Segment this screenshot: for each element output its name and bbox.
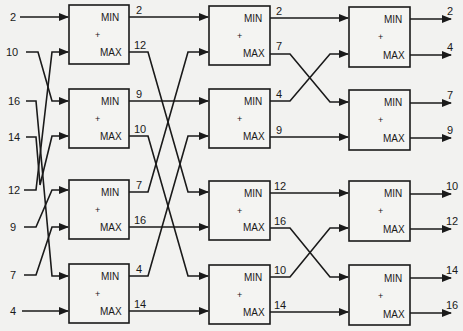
comparator-s3-3: MIN + MAX bbox=[349, 181, 410, 241]
final-output-labels: 2 4 7 9 10 12 14 16 bbox=[446, 5, 458, 311]
min-label: MIN bbox=[384, 14, 402, 25]
max-label: MAX bbox=[383, 224, 405, 235]
plus-sign: + bbox=[378, 206, 383, 216]
plus-sign: + bbox=[237, 290, 242, 300]
max-label: MAX bbox=[100, 47, 122, 58]
plus-sign: + bbox=[95, 289, 100, 299]
min-label: MIN bbox=[244, 96, 262, 107]
input-value: 4 bbox=[10, 305, 16, 317]
min-label: MIN bbox=[244, 188, 262, 199]
min-label: MIN bbox=[384, 188, 402, 199]
max-label: MAX bbox=[383, 309, 405, 320]
max-label: MAX bbox=[243, 307, 265, 318]
plus-sign: + bbox=[378, 291, 383, 301]
stage2-value: 2 bbox=[276, 5, 282, 17]
stage2-value: 12 bbox=[274, 180, 286, 192]
stage2-output-labels: 2 7 4 9 12 16 10 14 bbox=[274, 5, 286, 311]
min-label: MIN bbox=[384, 273, 402, 284]
comparator-s3-1: MIN + MAX bbox=[349, 7, 410, 67]
input-labels: 2 10 16 14 12 9 7 4 bbox=[6, 11, 20, 317]
min-label: MIN bbox=[244, 13, 262, 24]
stage1-value: 14 bbox=[134, 298, 146, 310]
min-label: MIN bbox=[101, 271, 119, 282]
stage2-value: 7 bbox=[276, 40, 282, 52]
output-value: 2 bbox=[447, 5, 453, 17]
comparator-s3-2: MIN + MAX bbox=[349, 90, 410, 150]
min-label: MIN bbox=[101, 96, 119, 107]
comparator-s1-4: MIN + MAX bbox=[69, 264, 129, 323]
comparator-s2-2: MIN + MAX bbox=[209, 89, 270, 148]
max-label: MAX bbox=[383, 133, 405, 144]
input-value: 7 bbox=[10, 269, 16, 281]
min-label: MIN bbox=[101, 187, 119, 198]
stage1-output-labels: 2 12 9 10 7 16 4 14 bbox=[134, 4, 146, 310]
plus-sign: + bbox=[237, 31, 242, 41]
plus-sign: + bbox=[95, 205, 100, 215]
stage2-value: 4 bbox=[276, 88, 282, 100]
stage1-value: 2 bbox=[136, 4, 142, 16]
output-value: 16 bbox=[446, 299, 458, 311]
stage1-value: 10 bbox=[134, 123, 146, 135]
input-value: 10 bbox=[6, 46, 18, 58]
input-value: 16 bbox=[8, 95, 20, 107]
stage1-value: 16 bbox=[134, 214, 146, 226]
stage1-value: 12 bbox=[134, 39, 146, 51]
max-label: MAX bbox=[383, 50, 405, 61]
plus-sign: + bbox=[378, 115, 383, 125]
stage2-value: 9 bbox=[276, 124, 282, 136]
comparator-s2-4: MIN + MAX bbox=[209, 265, 270, 324]
comparator-s2-1: MIN + MAX bbox=[209, 6, 270, 65]
input-value: 12 bbox=[8, 184, 20, 196]
max-label: MAX bbox=[100, 306, 122, 317]
stage1-value: 4 bbox=[136, 263, 142, 275]
comparator-s1-2: MIN + MAX bbox=[69, 89, 129, 148]
output-value: 10 bbox=[446, 180, 458, 192]
plus-sign: + bbox=[95, 114, 100, 124]
max-label: MAX bbox=[100, 222, 122, 233]
output-value: 12 bbox=[446, 215, 458, 227]
comparator-s3-4: MIN + MAX bbox=[349, 265, 410, 325]
output-value: 7 bbox=[447, 89, 453, 101]
output-wires bbox=[410, 19, 451, 313]
stage1-wires bbox=[20, 17, 68, 311]
stage2-value: 10 bbox=[274, 264, 286, 276]
input-value: 14 bbox=[8, 131, 20, 143]
max-label: MAX bbox=[243, 131, 265, 142]
output-value: 4 bbox=[447, 41, 453, 53]
comparator-s2-3: MIN + MAX bbox=[209, 181, 270, 240]
output-value: 9 bbox=[447, 124, 453, 136]
plus-sign: + bbox=[237, 114, 242, 124]
stage1-value: 9 bbox=[136, 88, 142, 100]
stage2-value: 14 bbox=[274, 299, 286, 311]
min-label: MIN bbox=[244, 272, 262, 283]
min-label: MIN bbox=[101, 12, 119, 23]
comparator-s1-3: MIN + MAX bbox=[69, 180, 129, 239]
comparator-s1-1: MIN + MAX bbox=[69, 5, 129, 64]
max-label: MAX bbox=[243, 222, 265, 233]
output-value: 14 bbox=[446, 264, 458, 276]
sorting-network-diagram: MIN + MAX MIN + MAX MIN + MAX MIN + MAX bbox=[0, 0, 463, 331]
input-value: 2 bbox=[10, 11, 16, 23]
max-label: MAX bbox=[100, 131, 122, 142]
stage1-value: 7 bbox=[136, 179, 142, 191]
stage2-value: 16 bbox=[274, 215, 286, 227]
plus-sign: + bbox=[237, 206, 242, 216]
input-value: 9 bbox=[10, 221, 16, 233]
max-label: MAX bbox=[243, 48, 265, 59]
plus-sign: + bbox=[95, 30, 100, 40]
min-label: MIN bbox=[384, 97, 402, 108]
plus-sign: + bbox=[378, 32, 383, 42]
